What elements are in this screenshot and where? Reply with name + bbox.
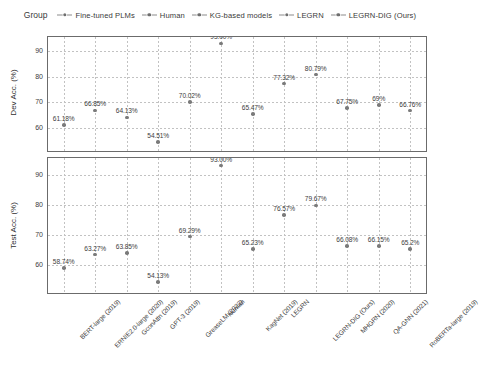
data-point[interactable] [156,280,160,284]
data-point-label: 64.13% [116,107,138,114]
y-axis-tick-label: 70 [35,230,43,237]
data-point[interactable] [125,116,129,120]
legend-entry-legrn-dig-ours[interactable]: LEGRN-DIG (Ours) [331,11,416,20]
data-point-label: 65.47% [242,104,264,111]
data-point-label: 61.18% [53,115,75,122]
data-point-label: 66.85% [84,100,106,107]
y-axis-title-dev: Dev Acc. (%) [9,53,18,133]
plot-area-dev: 61.18%66.85%64.13%54.51%70.02%93.00%65.4… [48,37,426,151]
gridline-horizontal [48,265,426,266]
legend-title: Group [24,10,48,20]
y-axis-tick-label: 80 [35,72,43,79]
legend-entry-label: LEGRN-DIG (Ours) [349,11,416,20]
legend-entry-label: Human [160,11,185,20]
data-point-label: 66.15% [368,236,390,243]
data-point-label: 80.79% [305,65,327,72]
data-point-label: 63.27% [84,245,106,252]
data-point-label: 93.00% [210,36,232,40]
plot-area-test: 58.74%63.27%63.85%54.13%69.29%93.00%65.2… [48,158,426,293]
x-axis-tick-label: QA-GNN (2021) [391,298,428,335]
gridline-vertical [127,37,128,151]
y-axis-ticks-test: 60708090 [22,157,43,294]
plot-panel-test-acc: 58.74%63.27%63.85%54.13%69.29%93.00%65.2… [47,157,427,294]
data-point-label: 77.32% [273,74,295,81]
gridline-horizontal [48,128,426,129]
gridline-vertical [316,37,317,151]
x-axis-tick-label: Human [226,298,246,318]
data-point-label: 76.57% [273,205,295,212]
legend-marker-icon [57,11,72,19]
y-axis-tick-label: 60 [35,123,43,130]
gridline-horizontal [48,205,426,206]
data-point[interactable] [282,82,286,86]
data-point[interactable] [93,109,97,113]
data-point[interactable] [62,123,66,127]
data-point[interactable] [377,244,381,248]
data-point-label: 58.74% [53,258,75,265]
y-axis-tick-label: 70 [35,98,43,105]
data-point-label: 54.13% [147,272,169,279]
gridline-horizontal [48,77,426,78]
x-axis-tick-label: BERT-large (2019) [78,298,121,341]
gridline-vertical [95,158,96,293]
data-point[interactable] [408,247,412,251]
gridline-vertical [95,37,96,151]
data-point-label: 65.23% [242,239,264,246]
data-point-label: 70.02% [179,92,201,99]
data-point-label: 54.51% [147,132,169,139]
legend-entry-label: LEGRN [297,11,324,20]
data-point[interactable] [219,42,223,46]
plot-panel-dev-acc: 61.18%66.85%64.13%54.51%70.02%93.00%65.4… [47,36,427,152]
data-point-label: 65.2% [401,239,419,246]
y-axis-tick-label: 90 [35,47,43,54]
x-axis-labels: BERT-large (2019)ERNIE2.0-large (2020)Gc… [47,294,427,369]
gridline-vertical [64,37,65,151]
legend-entry-label: KG-based models [210,11,272,20]
y-axis-tick-label: 60 [35,260,43,267]
data-point[interactable] [251,247,255,251]
data-point-label: 69% [372,95,385,102]
y-axis-tick-label: 90 [35,170,43,177]
data-point[interactable] [62,266,66,270]
data-point[interactable] [408,109,412,113]
legend-entry-kg-based-models[interactable]: KG-based models [192,11,272,20]
legend-entry-human[interactable]: Human [142,11,185,20]
data-point[interactable] [345,244,349,248]
gridline-vertical [379,158,380,293]
data-point[interactable] [314,204,318,208]
gridline-vertical [221,37,222,151]
gridline-vertical [221,158,222,293]
legend-marker-icon [142,11,157,19]
data-point-label: 79.67% [305,195,327,202]
gridline-vertical [127,158,128,293]
gridline-horizontal [48,51,426,52]
gridline-vertical [190,158,191,293]
gridline-vertical [410,158,411,293]
gridline-vertical [284,37,285,151]
data-point[interactable] [188,235,192,239]
data-point[interactable] [93,253,97,257]
legend-entry-legrn[interactable]: LEGRN [279,11,324,20]
data-point[interactable] [125,251,129,255]
data-point[interactable] [188,100,192,104]
data-point-label: 63.85% [116,243,138,250]
gridline-vertical [316,158,317,293]
gridline-horizontal [48,175,426,176]
data-point-label: 93.00% [210,157,232,163]
data-point[interactable] [282,213,286,217]
chart-legend: Group Fine-tuned PLMs Human KG-based mod… [0,10,440,20]
legend-entry-fine-tuned-plms[interactable]: Fine-tuned PLMs [57,11,134,20]
y-axis-tick-label: 80 [35,200,43,207]
data-point[interactable] [345,106,349,110]
data-point-label: 66.08% [336,236,358,243]
x-axis-tick-label: RoBERTa-large (2019) [428,298,479,349]
data-point[interactable] [251,112,255,116]
legend-marker-icon [331,11,346,19]
y-axis-ticks-dev: 60708090 [22,36,43,152]
data-point[interactable] [219,164,223,168]
gridline-vertical [410,37,411,151]
data-point[interactable] [377,103,381,107]
gridline-vertical [347,158,348,293]
gridline-vertical [253,158,254,293]
data-point[interactable] [156,140,160,144]
